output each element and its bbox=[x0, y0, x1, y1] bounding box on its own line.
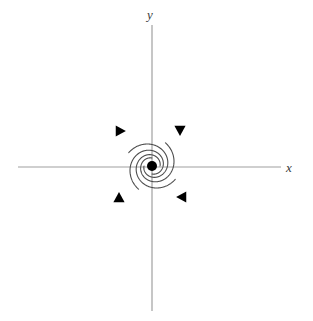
trajectory-curve bbox=[129, 144, 168, 177]
arrowhead-up-lower-left-arm bbox=[113, 192, 124, 202]
arrowhead-down-right-arm bbox=[174, 126, 185, 136]
y-axis-label: y bbox=[147, 7, 153, 23]
x-axis-label: x bbox=[286, 160, 292, 176]
phase-portrait-canvas bbox=[0, 0, 313, 321]
equilibrium-point bbox=[147, 161, 157, 171]
trajectory-curve bbox=[141, 143, 174, 182]
arrowhead-left-lower-right-arm bbox=[176, 191, 186, 202]
phase-portrait-figure: x y bbox=[0, 0, 313, 321]
trajectory-curve bbox=[130, 150, 163, 189]
arrowhead-right-upper-left-arm bbox=[116, 125, 126, 136]
trajectory-curve bbox=[136, 155, 175, 188]
